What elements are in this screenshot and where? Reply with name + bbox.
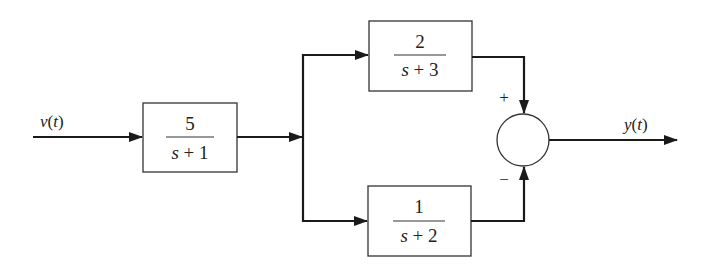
- block-g3: 1 s + 2: [368, 186, 471, 256]
- summing-junction: [497, 114, 549, 166]
- block-g3-denominator: s + 2: [400, 225, 437, 246]
- block-g1: 5 s + 1: [143, 103, 237, 172]
- block-g1-numerator: 5: [185, 113, 195, 134]
- minus-sign: −: [499, 170, 509, 189]
- block-g2-numerator: 2: [415, 31, 425, 52]
- block-g1-denominator: s + 1: [171, 142, 208, 163]
- block-diagram: v(t) 5 s + 1 2 s + 3 1 s + 2 + − y(t): [0, 0, 707, 270]
- plus-sign: +: [499, 88, 509, 107]
- block-g2: 2 s + 3: [369, 21, 472, 91]
- block-g2-denominator: s + 3: [401, 59, 438, 80]
- output-label: y(t): [622, 115, 648, 134]
- bottom-to-sum-line: [471, 167, 524, 221]
- top-to-sum-line: [472, 57, 524, 113]
- block-g3-numerator: 1: [414, 196, 424, 217]
- input-label: v(t): [40, 112, 64, 131]
